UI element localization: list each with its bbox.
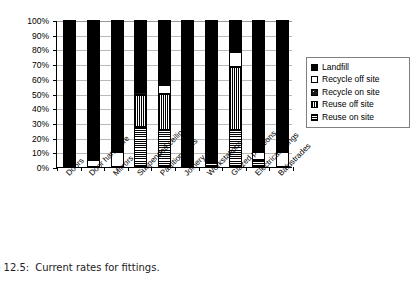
y-tick-mark: [53, 36, 57, 37]
bar-segment-landfill: [252, 20, 265, 152]
bar-segment-recycle-on: [134, 92, 147, 95]
legend-swatch-reuse-on: [311, 114, 318, 121]
bar-segment-reuse-off: [158, 94, 171, 131]
legend-label: Recycle on site: [322, 88, 380, 97]
bar-segment-landfill: [111, 20, 124, 152]
bar-segment-reuse-off: [229, 67, 242, 130]
figure-caption-title: Current rates for fittings.: [35, 262, 159, 273]
y-axis-tick-label: 100%: [27, 17, 49, 26]
figure-caption-number: ure 12.5:: [0, 262, 29, 273]
y-axis-tick-label: 10%: [32, 149, 49, 158]
y-axis-tick-label: 50%: [32, 90, 49, 99]
figure-container: 100%90%80%70%60%50%40%30%20%10%0% DoorsD…: [0, 0, 416, 282]
y-axis-tick-label: 30%: [32, 119, 49, 128]
legend-label: Reuse off site: [322, 100, 374, 109]
legend-swatch-reuse-off: [311, 101, 318, 108]
y-tick-mark: [53, 153, 57, 154]
y-tick-mark: [53, 168, 57, 169]
legend-swatch-recycle-on: [311, 89, 318, 96]
y-axis-tick-label: 20%: [32, 134, 49, 143]
legend-item[interactable]: Recycle off site: [311, 74, 405, 87]
legend-swatch-landfill: [311, 64, 318, 71]
y-tick-mark: [53, 50, 57, 51]
bar-segment-landfill: [63, 20, 76, 167]
y-axis-tick-label: 90%: [32, 31, 49, 40]
legend-item[interactable]: Reuse off site: [311, 99, 405, 112]
y-tick-mark: [53, 124, 57, 125]
legend-item[interactable]: Landfill: [311, 61, 405, 74]
bar-column[interactable]: [87, 20, 100, 167]
bar-segment-landfill: [205, 20, 218, 163]
legend-label: Reuse on site: [322, 113, 374, 122]
bar-segment-recycle-off: [229, 52, 242, 67]
chart-legend: LandfillRecycle off siteRecycle on siteR…: [306, 57, 410, 128]
bar-column[interactable]: [205, 20, 218, 167]
y-axis-tick-labels: 100%90%80%70%60%50%40%30%20%10%0%: [0, 21, 52, 168]
bar-segment-landfill: [276, 20, 289, 152]
legend-item[interactable]: Recycle on site: [311, 86, 405, 99]
bar-column[interactable]: [134, 20, 147, 167]
legend-label: Recycle off site: [322, 75, 379, 84]
bar-segment-landfill: [87, 20, 100, 160]
y-axis-tick-label: 40%: [32, 105, 49, 114]
bar-segment-landfill: [229, 20, 242, 52]
figure-caption: ure 12.5:Current rates for fittings.: [0, 262, 160, 274]
y-axis-tick-label: 70%: [32, 61, 49, 70]
bar-segment-landfill: [158, 20, 171, 85]
legend-item[interactable]: Reuse on site: [311, 111, 405, 124]
x-axis-category-labels: DoorsDoor hardwareMirrorsSuspended ceili…: [0, 170, 300, 240]
y-axis-tick-label: 60%: [32, 75, 49, 84]
legend-label: Landfill: [322, 63, 349, 72]
y-tick-mark: [53, 95, 57, 96]
legend-swatch-recycle-off: [311, 76, 318, 83]
bar-segment-recycle-off: [158, 85, 171, 94]
y-tick-mark: [53, 65, 57, 66]
bar-column[interactable]: [63, 20, 76, 167]
y-tick-mark: [53, 21, 57, 22]
y-axis-tick-label: 80%: [32, 46, 49, 55]
bar-segment-landfill: [134, 20, 147, 92]
y-tick-mark: [53, 139, 57, 140]
y-tick-mark: [53, 80, 57, 81]
bar-segment-reuse-off: [134, 95, 147, 127]
y-tick-mark: [53, 109, 57, 110]
